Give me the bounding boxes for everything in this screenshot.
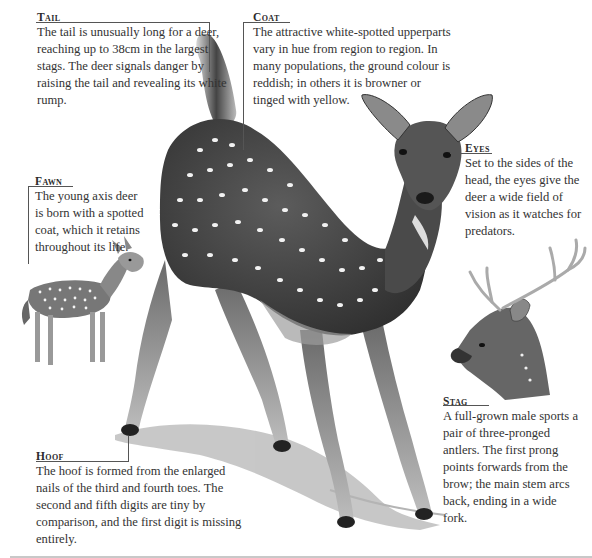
eyes-description: Set to the sides of the head, the eyes g…: [465, 155, 590, 240]
callout-tail: Tail The tail is unusually long for a de…: [37, 10, 237, 109]
stag-description: A full-grown male sports a pair of three…: [443, 408, 583, 527]
tail-description: The tail is unusually long for a deer, r…: [37, 24, 237, 109]
fawn-heading: Fawn: [35, 174, 145, 188]
hoof-description: The hoof is formed from the enlarged nai…: [36, 463, 246, 548]
callout-hoof: Hoof The hoof is formed from the enlarge…: [36, 449, 246, 548]
coat-heading: Coat: [253, 10, 453, 24]
callout-eyes: Eyes Set to the sides of the head, the e…: [465, 141, 590, 240]
hoof-heading: Hoof: [36, 449, 246, 463]
callout-coat: Coat The attractive white-spotted upperp…: [253, 10, 453, 109]
fawn-leader-vertical: [28, 186, 29, 264]
fawn-description: The young axis deer is born with a spott…: [35, 188, 145, 256]
stag-illustration: [451, 240, 585, 400]
tail-heading: Tail: [37, 10, 237, 24]
callout-stag: Stag A full-grown male sports a pair of …: [443, 394, 583, 527]
coat-leader-vertical: [243, 22, 244, 150]
eyes-heading: Eyes: [465, 141, 590, 155]
coat-description: The attractive white-spotted upperparts …: [253, 24, 453, 109]
callout-fawn: Fawn The young axis deer is born with a …: [35, 174, 145, 256]
stag-heading: Stag: [443, 394, 583, 408]
